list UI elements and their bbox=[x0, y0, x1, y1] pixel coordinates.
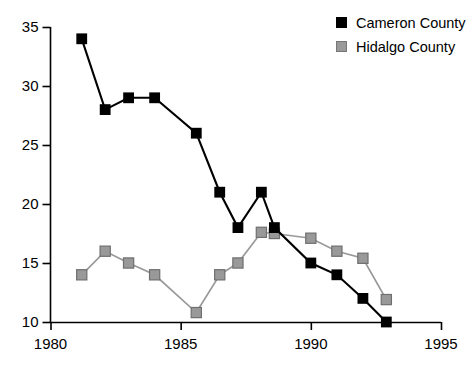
data-point-marker bbox=[332, 246, 342, 256]
y-axis-tick-label: 15 bbox=[11, 254, 39, 271]
series-hidalgo-county bbox=[77, 227, 392, 317]
data-series-layer bbox=[76, 33, 391, 327]
data-point-marker bbox=[256, 227, 266, 237]
legend-item-cameron-county: Cameron County bbox=[336, 12, 466, 33]
data-point-marker bbox=[149, 92, 160, 103]
y-axis-ticks bbox=[43, 28, 51, 323]
y-axis-tick-label: 10 bbox=[11, 313, 39, 330]
data-point-marker bbox=[381, 317, 392, 328]
x-axis-tick-label: 1980 bbox=[26, 335, 76, 352]
y-axis-tick-label: 30 bbox=[11, 77, 39, 94]
legend-item-hidalgo-county: Hidalgo County bbox=[336, 36, 466, 57]
data-point-marker bbox=[76, 33, 87, 44]
data-point-marker bbox=[100, 104, 111, 115]
x-axis-tick-label: 1985 bbox=[156, 335, 206, 352]
data-point-marker bbox=[233, 258, 243, 268]
y-axis-tick-label: 20 bbox=[11, 195, 39, 212]
data-point-marker bbox=[191, 128, 202, 139]
line-chart: 1015202530351980198519901995 Cameron Cou… bbox=[0, 0, 471, 365]
y-axis-tick-label: 35 bbox=[11, 18, 39, 35]
data-point-marker bbox=[123, 92, 134, 103]
legend-label-cameron-county: Cameron County bbox=[356, 15, 466, 31]
x-axis-tick-label: 1990 bbox=[286, 335, 336, 352]
legend-swatch-icon-cameron-county bbox=[336, 17, 347, 28]
chart-legend: Cameron County Hidalgo County bbox=[336, 12, 466, 60]
data-point-marker bbox=[150, 270, 160, 280]
data-point-marker bbox=[269, 222, 280, 233]
data-point-marker bbox=[214, 187, 225, 198]
legend-swatch-icon-hidalgo-county bbox=[336, 41, 347, 52]
data-point-marker bbox=[100, 246, 110, 256]
data-point-marker bbox=[124, 258, 134, 268]
data-point-marker bbox=[191, 307, 201, 317]
data-point-marker bbox=[358, 253, 368, 263]
data-point-marker bbox=[305, 258, 316, 269]
x-axis-tick-label: 1995 bbox=[416, 335, 466, 352]
legend-label-hidalgo-county: Hidalgo County bbox=[356, 39, 455, 55]
data-point-marker bbox=[331, 269, 342, 280]
data-point-marker bbox=[358, 293, 369, 304]
data-point-marker bbox=[256, 187, 267, 198]
series-cameron-county bbox=[76, 33, 391, 327]
axis-lines bbox=[50, 27, 441, 323]
data-point-marker bbox=[306, 233, 316, 243]
data-point-marker bbox=[215, 270, 225, 280]
data-point-marker bbox=[381, 294, 391, 304]
data-point-marker bbox=[233, 222, 244, 233]
data-point-marker bbox=[77, 270, 87, 280]
y-axis-tick-label: 25 bbox=[11, 136, 39, 153]
